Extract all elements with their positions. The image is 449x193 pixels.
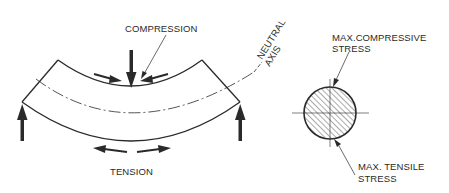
max-compressive-label-line1: MAX.COMPRESSIVE: [332, 32, 426, 43]
max-compressive-arrowhead-icon: [333, 78, 339, 87]
max-tensile-leader: [339, 146, 355, 175]
tension-label: TENSION: [110, 166, 153, 177]
max-tensile-arrowhead-icon: [334, 139, 341, 147]
max-tensile-label-line2: STRESS: [358, 173, 397, 184]
load-arrow-down-icon: [126, 50, 137, 88]
beam-bottom-edge: [22, 102, 240, 141]
beam-left-end: [22, 60, 58, 102]
neutral-axis-line: [36, 72, 254, 113]
compression-leader: [144, 35, 166, 74]
left-support-arrow-icon: [17, 104, 28, 141]
max-compressive-label-line2: STRESS: [332, 43, 371, 54]
right-support-arrow-icon: [235, 104, 246, 141]
max-compressive-leader: [336, 52, 349, 80]
compression-label: COMPRESSION: [125, 23, 197, 34]
beam-bending-diagram: COMPRESSION TENSION NEUTRAL AXIS MAX.COM…: [0, 0, 449, 193]
tension-arrows-icon: [93, 145, 171, 153]
cross-section: [292, 79, 369, 147]
max-tensile-label-line1: MAX. TENSILE: [358, 161, 425, 172]
beam-right-end: [202, 60, 240, 102]
neutral-axis-leader: [254, 62, 262, 72]
compression-leader-arrowhead-icon: [141, 71, 147, 79]
